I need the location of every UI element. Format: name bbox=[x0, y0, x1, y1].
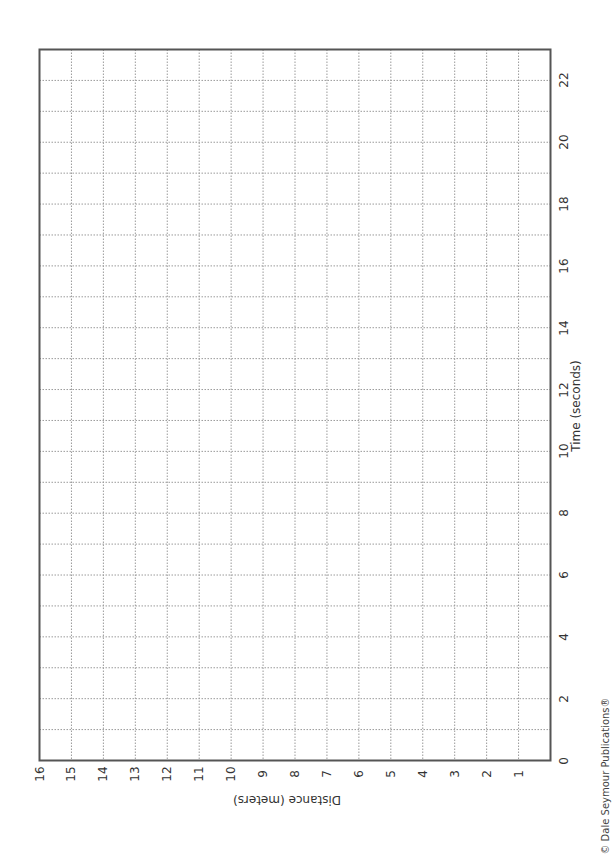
time-tick-label: 18 bbox=[557, 196, 571, 211]
origin-label: 0 bbox=[557, 757, 571, 765]
copyright-notice: © Dale Seymour Publications® bbox=[600, 697, 611, 854]
time-tick-label: 8 bbox=[557, 509, 571, 517]
time-tick-label: 2 bbox=[557, 695, 571, 703]
distance-tick-label: 14 bbox=[96, 766, 110, 781]
grid-lines bbox=[40, 50, 551, 761]
distance-tick-label: 7 bbox=[320, 770, 334, 778]
distance-tick-label: 13 bbox=[128, 766, 142, 781]
time-tick-label: 4 bbox=[557, 633, 571, 641]
distance-tick-label: 8 bbox=[288, 770, 302, 778]
distance-tick-label: 16 bbox=[33, 766, 47, 781]
time-tick-label: 22 bbox=[557, 73, 571, 88]
time-tick-label: 14 bbox=[557, 320, 571, 335]
distance-tick-label: 12 bbox=[160, 766, 174, 781]
distance-tick-label: 10 bbox=[224, 766, 238, 781]
distance-tick-label: 5 bbox=[384, 770, 398, 778]
distance-tick-label: 6 bbox=[352, 770, 366, 778]
time-tick-label: 16 bbox=[557, 258, 571, 273]
time-tick-label: 20 bbox=[557, 135, 571, 150]
distance-tick-label: 4 bbox=[416, 770, 430, 778]
distance-tick-label: 11 bbox=[192, 766, 206, 781]
distance-tick-label: 1 bbox=[512, 770, 526, 778]
x-axis-title: Time (seconds) bbox=[569, 360, 583, 452]
time-tick-label: 6 bbox=[557, 571, 571, 579]
distance-tick-label: 9 bbox=[256, 770, 270, 778]
y-axis-title: Distance (meters) bbox=[233, 793, 341, 807]
distance-tick-label: 3 bbox=[448, 770, 462, 778]
distance-tick-label: 2 bbox=[480, 770, 494, 778]
distance-tick-label: 15 bbox=[64, 766, 78, 781]
